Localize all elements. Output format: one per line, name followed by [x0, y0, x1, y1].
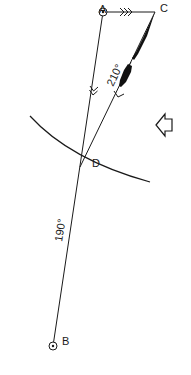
label-c: C	[160, 2, 168, 14]
hollow-arrow-left-icon	[156, 114, 172, 136]
point-b-marker	[49, 342, 57, 350]
position-arc	[30, 116, 150, 182]
navigation-diagram: A C D B 210° 190°	[0, 0, 191, 375]
track-line-a-b	[53, 12, 103, 346]
label-a: A	[99, 3, 107, 15]
label-d: D	[92, 157, 100, 169]
bearing-label-a-b: 190°	[52, 218, 67, 242]
single-chevron-down-icon	[114, 91, 124, 97]
label-b: B	[62, 335, 69, 347]
